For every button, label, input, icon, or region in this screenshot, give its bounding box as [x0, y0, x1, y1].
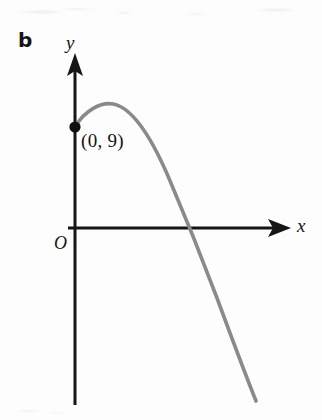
- figure-canvas: b y x O (0, 9): [0, 0, 322, 420]
- coordinate-plot: [0, 0, 322, 420]
- x-axis-label: x: [297, 216, 305, 235]
- part-label: b: [18, 30, 33, 50]
- origin-label: O: [54, 234, 67, 252]
- y-intercept-label: (0, 9): [81, 131, 124, 150]
- y-intercept-point-marker: [69, 121, 80, 132]
- y-axis-label: y: [66, 33, 74, 52]
